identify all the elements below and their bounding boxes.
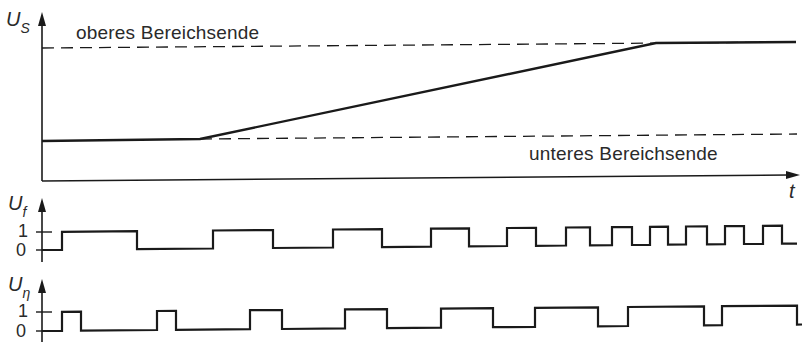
us-signal (42, 42, 796, 141)
ueta-y-arrow-icon (38, 279, 46, 293)
lower-limit-line (200, 134, 797, 139)
lower-limit-label: unteres Bereichsende (529, 143, 718, 165)
ueta-panel (36, 279, 802, 342)
uf-y-arrow-icon (38, 198, 46, 212)
upper-limit-label: oberes Bereichsende (76, 22, 259, 44)
uf-tick-0-label: 0 (16, 240, 26, 261)
us-axis-label: US (6, 8, 30, 34)
us-axis-main: U (6, 8, 20, 30)
ueta-axis-label: Uη (8, 273, 30, 299)
time-axis-arrow-icon (786, 171, 800, 179)
uf-axis-sub: f (22, 204, 26, 220)
uf-tick-1-label: 1 (18, 221, 28, 242)
us-y-arrow-icon (38, 12, 46, 26)
time-axis (42, 175, 788, 181)
uf-axis-label: Uf (8, 192, 26, 218)
us-axis-sub: S (20, 20, 29, 36)
ueta-axis-main: U (8, 273, 22, 295)
ueta-tick-1-label: 1 (18, 301, 28, 322)
uf-axis-main: U (8, 192, 22, 214)
uf-panel (36, 198, 797, 262)
uf-signal (42, 226, 797, 250)
ueta-axis-sub: η (22, 285, 30, 301)
ueta-tick-0-label: 0 (16, 321, 26, 342)
ueta-signal (42, 306, 802, 331)
time-axis-label: t (789, 180, 795, 203)
timing-diagram (0, 0, 805, 358)
